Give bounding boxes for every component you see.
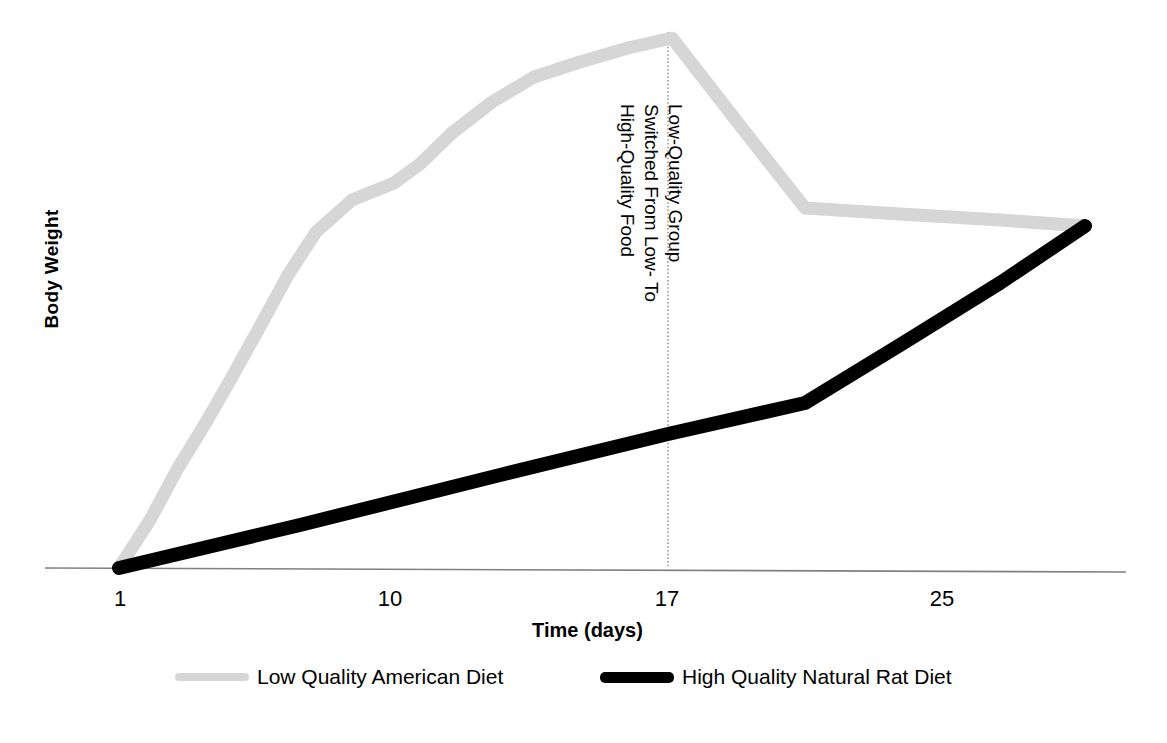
x-tick-label-25: 25	[912, 586, 972, 612]
x-tick-label-17: 17	[637, 586, 697, 612]
x-tick-label-1: 1	[90, 586, 150, 612]
series-line-low-quality-american-diet	[119, 38, 1085, 568]
x-axis-line	[45, 568, 1126, 572]
annotation-line-2: Switched From Low- To	[640, 104, 662, 302]
legend-label-high-quality: High Quality Natural Rat Diet	[682, 665, 952, 689]
y-axis-label: Body Weight	[41, 199, 63, 339]
annotation-line-1: Low-Quality Group	[664, 104, 686, 262]
chart-root: Body Weight 1 10 17 25 Time (days) Low-Q…	[0, 0, 1167, 743]
chart-legend: Low Quality American Diet High Quality N…	[0, 662, 1167, 702]
annotation-line-3: High-Quality Food	[616, 104, 638, 257]
x-axis-title-wrap: Time (days)	[0, 619, 1167, 642]
x-axis-title: Time (days)	[532, 619, 643, 642]
x-tick-label-10: 10	[360, 586, 420, 612]
series-line-high-quality-natural-rat-diet	[119, 226, 1085, 568]
legend-swatch-icon-high-quality	[600, 672, 674, 683]
legend-label-low-quality: Low Quality American Diet	[257, 665, 503, 689]
legend-item-low-quality-american-diet[interactable]: Low Quality American Diet	[175, 662, 503, 692]
legend-swatch-icon-low-quality	[175, 673, 249, 681]
legend-item-high-quality-natural-rat-diet[interactable]: High Quality Natural Rat Diet	[600, 662, 952, 692]
